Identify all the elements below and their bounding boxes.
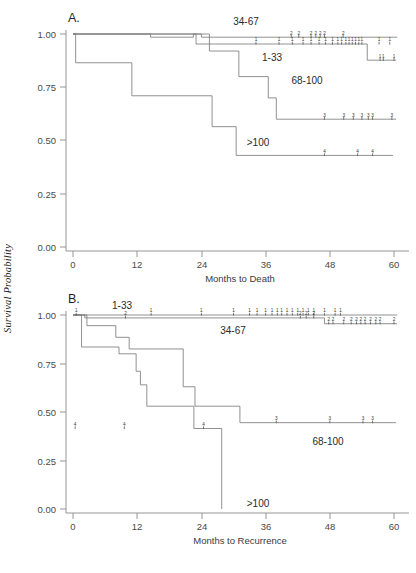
y-tick-label: 0.00: [38, 242, 57, 253]
censor-group-code: 3: [361, 113, 364, 118]
censor-group-code: 1: [75, 308, 78, 313]
x-tick-label: 48: [325, 521, 336, 532]
censor-group-code: 2: [305, 311, 308, 316]
x-tick-label: 0: [70, 521, 75, 532]
censor-group-code: 2: [290, 31, 293, 36]
censor-group-code: 3: [391, 113, 394, 118]
km-curve-34-67: [73, 315, 397, 324]
censor-group-code: 1: [291, 308, 294, 313]
panel-a-censor-marks: 11111111111111111111122222223333333444: [255, 31, 396, 156]
censor-group-code: 2: [364, 317, 367, 322]
y-tick-label: 1.00: [38, 310, 57, 321]
censor-group-code: 2: [297, 31, 300, 36]
censor-group-code: 1: [361, 37, 364, 42]
panel-b-axes: [60, 311, 409, 519]
censor-group-code: 1: [232, 308, 235, 313]
censor-group-code: 1: [286, 308, 289, 313]
censor-group-code: 1: [334, 308, 337, 313]
censor-group-code: 2: [355, 317, 358, 322]
censor-group-code: 3: [329, 416, 332, 421]
censor-group-code: 4: [74, 422, 77, 427]
censor-group-code: 3: [323, 113, 326, 118]
censor-group-code: 1: [310, 37, 313, 42]
x-tick-label: 12: [132, 259, 143, 270]
censor-group-code: 1: [248, 308, 251, 313]
censor-group-code: 2: [310, 31, 313, 36]
censor-group-code: 4: [123, 422, 126, 427]
censor-group-code: 4: [371, 149, 374, 154]
x-tick-label: 24: [197, 521, 208, 532]
censor-group-code: 3: [367, 113, 370, 118]
km-curve-68-100: [73, 34, 396, 119]
x-tick-label: 60: [389, 259, 400, 270]
censor-group-code: 4: [323, 149, 326, 154]
y-tick-label: 0.25: [38, 456, 57, 467]
censor-group-code: 1: [280, 308, 283, 313]
censor-group-code: 2: [299, 311, 302, 316]
censor-group-code: 2: [312, 311, 315, 316]
censor-group-code: 2: [319, 31, 322, 36]
censor-group-code: 1: [276, 308, 279, 313]
censor-group-code: 3: [371, 416, 374, 421]
curve-label-1-33: 1-33: [112, 300, 132, 311]
y-tick-label: 0.50: [38, 407, 57, 418]
panel-b: 1.00 0.75 0.50 0.25 0.00 0 12 24 36 48 6…: [0, 283, 416, 573]
censor-group-code: 1: [200, 308, 203, 313]
censor-group-code: 1: [378, 37, 381, 42]
x-axis-title: Months to Recurrence: [193, 535, 286, 546]
censor-group-code: 3: [362, 416, 365, 421]
x-tick-label: 24: [197, 259, 208, 270]
censor-group-code: 1: [291, 37, 294, 42]
censor-group-code: 2: [124, 311, 127, 316]
censor-group-code: 2: [360, 317, 363, 322]
km-curve-100: [73, 315, 222, 509]
censor-group-code: 1: [271, 308, 274, 313]
y-tick-label: 0.00: [38, 504, 57, 515]
censor-group-code: 1: [278, 37, 281, 42]
censor-group-code: 1: [393, 54, 396, 59]
censor-group-code: 2: [315, 31, 318, 36]
x-tick-label: 36: [261, 259, 272, 270]
censor-group-code: 1: [337, 37, 340, 42]
censor-group-code: 1: [340, 37, 343, 42]
censor-group-code: 1: [255, 37, 258, 42]
censor-group-code: 1: [307, 308, 310, 313]
curve-label-1-33: 1-33: [262, 52, 282, 63]
censor-group-code: 2: [379, 317, 382, 322]
x-tick-label: 36: [261, 521, 272, 532]
panel-b-plot: 1.00 0.75 0.50 0.25 0.00 0 12 24 36 48 6…: [0, 283, 416, 573]
curve-label-68-100: 68-100: [312, 436, 344, 447]
x-tick-label: 48: [325, 259, 336, 270]
km-curve-100: [73, 34, 393, 155]
y-tick-label: 0.50: [38, 135, 57, 146]
curve-label-over-100: >100: [247, 137, 270, 148]
y-tick-label: 0.25: [38, 189, 57, 200]
panel-a: 1.00 0.75 0.50 0.25 0.00 0 12 24 36 48 6…: [0, 0, 416, 290]
censor-group-code: 2: [369, 317, 372, 322]
censor-group-code: 1: [302, 37, 305, 42]
survival-figure: Survival Probability 1.00 0: [0, 0, 416, 573]
y-tick-label: 0.75: [38, 82, 57, 93]
censor-group-code: 3: [275, 416, 278, 421]
censor-group-code: 2: [350, 317, 353, 322]
censor-group-code: 2: [332, 317, 335, 322]
curve-label-68-100: 68-100: [291, 75, 323, 86]
censor-group-code: 1: [150, 308, 153, 313]
censor-group-code: 4: [202, 422, 205, 427]
x-tick-label: 60: [389, 521, 400, 532]
censor-group-code: 1: [323, 308, 326, 313]
censor-group-code: 4: [356, 149, 359, 154]
censor-group-code: 1: [318, 37, 321, 42]
y-tick-label: 0.75: [38, 359, 57, 370]
x-tick-label: 12: [132, 521, 143, 532]
x-tick-label: 0: [70, 259, 75, 270]
censor-group-code: 2: [375, 317, 378, 322]
censor-group-code: 1: [382, 54, 385, 59]
panel-a-plot: 1.00 0.75 0.50 0.25 0.00 0 12 24 36 48 6…: [0, 0, 416, 290]
censor-group-code: 3: [342, 113, 345, 118]
panel-a-axes: [60, 30, 409, 257]
censor-group-code: 1: [256, 308, 259, 313]
panel-a-curves: [73, 34, 397, 155]
censor-group-code: 1: [324, 37, 327, 42]
censor-group-code: 1: [388, 37, 391, 42]
